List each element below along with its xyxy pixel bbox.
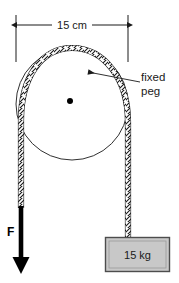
dimension-15cm: 15 cm xyxy=(16,15,128,62)
downward-force-arrow: F xyxy=(7,206,30,274)
hanging-mass-block: 15 kg xyxy=(106,238,170,272)
peg-center-dot xyxy=(67,98,73,104)
dimension-label: 15 cm xyxy=(57,19,87,31)
force-label: F xyxy=(7,225,14,239)
force-arrow-head xyxy=(13,257,30,274)
fixed-peg-label-line1: fixed xyxy=(141,71,165,83)
fixed-peg-label-line2: peg xyxy=(141,85,160,97)
physics-diagram: 15 cm F fixed peg 15 kg xyxy=(0,0,179,283)
mass-label: 15 kg xyxy=(124,249,151,261)
